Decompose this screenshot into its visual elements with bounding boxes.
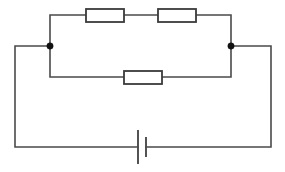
wire-top-branch-left-riser	[50, 15, 86, 46]
wire-outer-loop	[15, 46, 271, 147]
circuit-diagram-canvas	[0, 0, 285, 172]
wire-top-branch-right-riser	[196, 15, 231, 46]
junction-node-left	[47, 43, 53, 49]
resistor-middle	[124, 71, 162, 84]
junction-node-right	[228, 43, 234, 49]
wire-middle-branch-right	[162, 46, 231, 77]
resistor-top-left	[86, 9, 124, 22]
wire-middle-branch-left	[50, 46, 124, 77]
circuit-schematic	[0, 0, 285, 172]
resistor-top-right	[158, 9, 196, 22]
